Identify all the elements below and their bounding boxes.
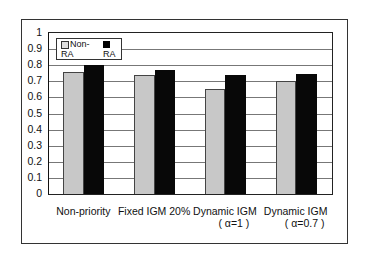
y-tick-label: 0 bbox=[22, 188, 42, 198]
y-tick-label: 0.6 bbox=[22, 91, 42, 101]
y-tick-label: 0.7 bbox=[22, 75, 42, 85]
bar-ra bbox=[84, 65, 105, 194]
y-tick-label: 0.3 bbox=[22, 140, 42, 150]
bar-nonra bbox=[276, 81, 297, 194]
y-tick-label: 0.8 bbox=[22, 59, 42, 69]
y-tick-label: 0.5 bbox=[22, 108, 42, 118]
ra-swatch-icon bbox=[103, 41, 110, 48]
bar-ra bbox=[155, 70, 176, 194]
legend: Non-RA RA bbox=[56, 38, 122, 60]
non-ra-swatch-icon bbox=[61, 41, 69, 49]
bar-nonra bbox=[134, 75, 155, 194]
y-tick-label: 0.2 bbox=[22, 156, 42, 166]
y-tick-label: 1 bbox=[22, 27, 42, 37]
y-tick-label: 0.1 bbox=[22, 172, 42, 182]
legend-item-ra: RA bbox=[103, 39, 121, 59]
bar-nonra bbox=[63, 72, 84, 194]
x-category-label: Dynamic IGM( α=0.7 ) bbox=[250, 205, 341, 229]
bar-nonra bbox=[205, 89, 226, 194]
y-tick-label: 0.4 bbox=[22, 124, 42, 134]
bar-ra bbox=[296, 74, 317, 194]
bar-ra bbox=[225, 75, 246, 194]
y-tick-label: 0.9 bbox=[22, 43, 42, 53]
legend-item-non-ra: Non-RA bbox=[61, 39, 97, 59]
